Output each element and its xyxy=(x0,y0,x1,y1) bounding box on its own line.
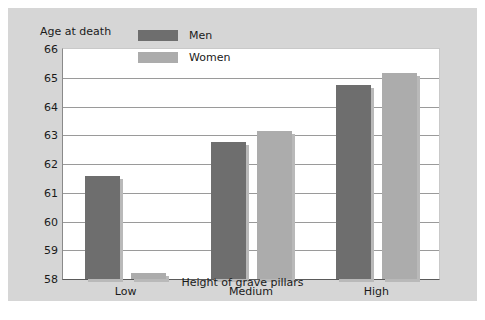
bar-body xyxy=(336,85,371,279)
legend-label-women: Women xyxy=(189,51,230,64)
y-axis-title: Age at death xyxy=(40,25,111,38)
legend-item-women: Women xyxy=(138,46,230,68)
legend-swatch-men-icon xyxy=(138,30,178,41)
y-axis-tick-label: 59 xyxy=(44,244,58,257)
chart-figure: Age at death 585960616263646566 LowMediu… xyxy=(8,8,477,301)
y-axis-tick-label: 66 xyxy=(44,43,58,56)
chart-legend: Men Women xyxy=(138,24,230,68)
bar-body xyxy=(382,73,417,279)
x-axis-title: Height of grave pillars xyxy=(8,276,477,289)
plot-area: 585960616263646566 LowMediumHigh xyxy=(62,48,440,280)
y-axis-tick-label: 62 xyxy=(44,158,58,171)
y-axis-tick-label: 64 xyxy=(44,100,58,113)
y-axis-tick-label: 60 xyxy=(44,215,58,228)
y-axis-tick-label: 65 xyxy=(44,71,58,84)
bar-high-women xyxy=(382,73,417,279)
legend-swatch-women-icon xyxy=(138,52,178,63)
y-axis-tick-label: 63 xyxy=(44,129,58,142)
legend-item-men: Men xyxy=(138,24,230,46)
bar-body xyxy=(257,131,292,279)
bar-body xyxy=(211,142,246,279)
bar-high-men xyxy=(336,85,371,279)
bar-low-men xyxy=(85,176,120,280)
bar-medium-men xyxy=(211,142,246,279)
legend-label-men: Men xyxy=(189,29,212,42)
y-axis-tick-label: 61 xyxy=(44,186,58,199)
bar-body xyxy=(85,176,120,280)
bar-medium-women xyxy=(257,131,292,279)
